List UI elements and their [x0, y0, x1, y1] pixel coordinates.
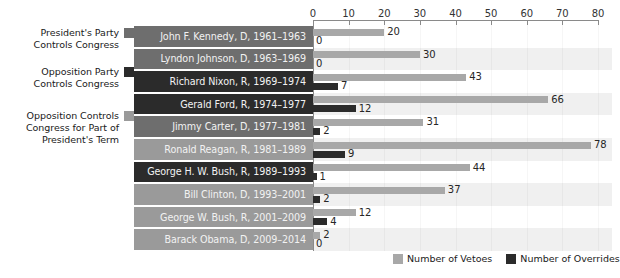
override-bar: [313, 218, 327, 225]
override-bar: [313, 173, 317, 180]
category-row-label: Gerald Ford, R, 1974–1977: [134, 94, 313, 115]
x-axis-tick: [527, 20, 528, 25]
x-axis-tick: [313, 20, 314, 25]
swatch-number-of-overrides: [506, 254, 516, 264]
swatch-number-of-vetoes: [393, 254, 403, 264]
category-row-label-text: Richard Nixon, R, 1969–1974: [170, 76, 306, 87]
plot-row-band: [313, 228, 612, 251]
veto-value-label: 78: [594, 140, 607, 150]
series-legend-label: Number of Vetoes: [407, 253, 492, 264]
category-legend-entry: President's PartyControls Congress: [0, 27, 134, 51]
x-axis-tick-label: 70: [556, 8, 569, 19]
category-legend-label: President's PartyControls Congress: [34, 27, 119, 51]
category-row-label: John F. Kennedy, D, 1961–1963: [134, 26, 313, 47]
veto-bar: [313, 74, 466, 81]
category-row-label: Ronald Reagan, R, 1981–1989: [134, 139, 313, 160]
plot-gridline: [456, 25, 457, 251]
override-bar: [313, 105, 356, 112]
series-legend: Number of VetoesNumber of Overrides: [393, 253, 620, 264]
plot-gridline: [562, 25, 563, 251]
category-row-label: Jimmy Carter, D, 1977–1981: [134, 116, 313, 137]
category-row-label-text: Ronald Reagan, R, 1981–1989: [164, 144, 306, 155]
category-legend-entry: Opposition ControlsCongress for Part ofP…: [0, 110, 134, 147]
category-legend: President's PartyControls CongressOpposi…: [0, 0, 134, 278]
override-bar: [313, 128, 320, 135]
category-legend-label: Opposition ControlsCongress for Part ofP…: [26, 110, 119, 147]
x-axis: [313, 20, 603, 26]
veto-bar: [313, 29, 384, 36]
category-row-label: Richard Nixon, R, 1969–1974: [134, 71, 313, 92]
swatch-president-party: [124, 28, 134, 38]
override-value-label: 0: [316, 239, 322, 249]
x-axis-tick-labels: 01020304050607080: [313, 2, 603, 18]
veto-bar: [313, 51, 420, 58]
series-legend-label: Number of Overrides: [520, 253, 619, 264]
veto-value-label: 20: [387, 27, 400, 37]
x-axis-tick: [384, 20, 385, 25]
category-row-label: Barack Obama, D, 2009–2014: [134, 229, 313, 250]
x-axis-tick-label: 30: [414, 8, 427, 19]
x-axis-tick-label: 20: [378, 8, 391, 19]
veto-value-label: 44: [473, 163, 486, 173]
override-value-label: 2: [323, 194, 329, 204]
category-label-column: John F. Kennedy, D, 1961–1963Lyndon John…: [134, 25, 313, 251]
swatch-opposition-party: [124, 67, 134, 77]
override-bar: [313, 151, 345, 158]
plot-gridline: [491, 25, 492, 251]
override-value-label: 4: [330, 217, 336, 227]
veto-value-label: 12: [359, 208, 372, 218]
plot-area: 203043663178443712200712291240: [313, 25, 612, 251]
veto-bar: [313, 164, 470, 171]
x-axis-tick: [491, 20, 492, 25]
category-legend-entry: Opposition PartyControls Congress: [0, 66, 134, 90]
veto-value-label: 2: [323, 230, 329, 240]
override-value-label: 0: [316, 59, 322, 69]
x-axis-tick-label: 40: [449, 8, 462, 19]
category-row-label-text: George W. Bush, R, 2001–2009: [160, 212, 306, 223]
category-row-label: George H. W. Bush, R, 1989–1993: [134, 162, 313, 183]
x-axis-tick: [562, 20, 563, 25]
override-value-label: 12: [359, 104, 372, 114]
veto-bar: [313, 96, 548, 103]
override-bar: [313, 196, 320, 203]
plot-gridline: [349, 25, 350, 251]
x-axis-tick-label: 10: [342, 8, 355, 19]
plot-gridline: [527, 25, 528, 251]
x-axis-tick-label: 50: [485, 8, 498, 19]
series-legend-entry: Number of Overrides: [506, 253, 619, 264]
swatch-opposition-partial: [124, 111, 134, 121]
category-legend-label: Opposition PartyControls Congress: [34, 66, 119, 90]
category-row-label-text: Jimmy Carter, D, 1977–1981: [172, 121, 306, 132]
override-value-label: 9: [348, 149, 354, 159]
x-axis-tick: [598, 20, 599, 25]
category-row-label-text: Lyndon Johnson, D, 1963–1969: [160, 53, 306, 64]
category-row-label: George W. Bush, R, 2001–2009: [134, 207, 313, 228]
category-row-label-text: John F. Kennedy, D, 1961–1963: [160, 31, 306, 42]
veto-value-label: 43: [469, 72, 482, 82]
override-value-label: 0: [316, 36, 322, 46]
plot-gridline: [598, 25, 599, 251]
override-bar: [313, 83, 338, 90]
veto-value-label: 30: [423, 50, 436, 60]
x-axis-tick: [420, 20, 421, 25]
x-axis-tick: [456, 20, 457, 25]
x-axis-tick-label: 0: [310, 8, 316, 19]
x-axis-tick-label: 80: [592, 8, 605, 19]
category-row-label-text: Gerald Ford, R, 1974–1977: [180, 99, 306, 110]
x-axis-tick-label: 60: [520, 8, 533, 19]
veto-bar: [313, 187, 445, 194]
veto-value-label: 66: [551, 95, 564, 105]
veto-value-label: 37: [448, 185, 461, 195]
veto-value-label: 31: [426, 117, 439, 127]
plot-gridline: [384, 25, 385, 251]
override-value-label: 2: [323, 126, 329, 136]
veto-bar: [313, 142, 591, 149]
x-axis-tick: [349, 20, 350, 25]
category-row-label-text: Bill Clinton, D, 1993–2001: [184, 189, 306, 200]
override-value-label: 7: [341, 81, 347, 91]
series-legend-entry: Number of Vetoes: [393, 253, 492, 264]
category-row-label: Lyndon Johnson, D, 1963–1969: [134, 49, 313, 70]
veto-bar: [313, 119, 423, 126]
category-row-label-text: George H. W. Bush, R, 1989–1993: [147, 166, 306, 177]
